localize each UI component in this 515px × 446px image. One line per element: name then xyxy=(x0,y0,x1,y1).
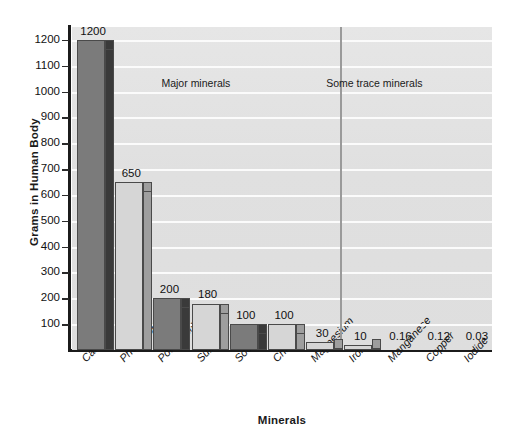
section-caption-major: Major minerals xyxy=(126,77,266,89)
bar-front-face xyxy=(115,182,143,350)
gridline xyxy=(72,66,492,68)
x-axis-title: Minerals xyxy=(72,414,492,426)
bar-front-face xyxy=(77,40,105,350)
y-tick-mark xyxy=(62,40,69,42)
bar-calcium xyxy=(77,40,105,350)
y-tick-label: 1000 xyxy=(16,86,60,98)
bar-value-label: 100 xyxy=(261,310,307,322)
bar-side-face xyxy=(105,49,114,350)
y-tick-mark xyxy=(62,195,69,197)
y-tick-mark xyxy=(62,272,69,274)
bar-magnesium xyxy=(306,342,334,350)
bar-value-label: 1200 xyxy=(70,26,116,38)
bar-sulfur xyxy=(192,304,220,351)
bar-value-label: 650 xyxy=(108,168,154,180)
bar-top-bevel xyxy=(105,40,114,49)
bar-front-face xyxy=(230,324,258,350)
y-tick-label: 300 xyxy=(16,266,60,278)
mineral-composition-bar-chart: Grams in Human Body Minerals 10020030040… xyxy=(0,0,515,446)
bar-phosphorus xyxy=(115,182,143,350)
bar-front-face xyxy=(192,304,220,351)
bar-side-face xyxy=(181,307,190,350)
y-tick-label: 400 xyxy=(16,241,60,253)
y-tick-mark xyxy=(62,324,69,326)
bar-value-label: 0.03 xyxy=(454,331,500,343)
gridline xyxy=(72,143,492,145)
y-tick-mark xyxy=(62,143,69,145)
y-tick-label: 900 xyxy=(16,111,60,123)
bar-chloride xyxy=(268,324,296,350)
y-tick-mark xyxy=(62,169,69,171)
section-caption-trace: Some trace minerals xyxy=(304,77,444,89)
y-tick-label: 800 xyxy=(16,137,60,149)
bar-front-face xyxy=(153,298,181,350)
gridline xyxy=(72,117,492,119)
y-axis-line xyxy=(68,25,71,352)
gridline xyxy=(72,40,492,42)
bar-top-bevel xyxy=(258,324,267,333)
plot-area: Major mineralsSome trace minerals 120065… xyxy=(72,27,492,350)
bar-value-label: 180 xyxy=(185,289,231,301)
major-trace-divider xyxy=(340,27,342,350)
y-tick-label: 1100 xyxy=(16,60,60,72)
y-tick-mark xyxy=(62,298,69,300)
bar-potassium xyxy=(153,298,181,350)
y-tick-label: 100 xyxy=(16,318,60,330)
bar-front-face xyxy=(268,324,296,350)
bar-side-face xyxy=(258,333,267,350)
y-tick-mark xyxy=(62,221,69,223)
bar-side-face xyxy=(372,348,381,350)
bar-sodium xyxy=(230,324,258,350)
y-tick-mark xyxy=(62,92,69,94)
y-tick-mark xyxy=(62,117,69,119)
bar-top-bevel xyxy=(143,182,152,191)
y-tick-mark xyxy=(62,247,69,249)
bar-side-face xyxy=(143,191,152,350)
bar-iron xyxy=(344,345,372,350)
y-tick-label: 700 xyxy=(16,163,60,175)
y-tick-mark xyxy=(62,66,69,68)
y-tick-label: 500 xyxy=(16,215,60,227)
y-tick-label: 1200 xyxy=(16,34,60,46)
bar-side-face xyxy=(334,348,343,350)
bar-value-label: 10 xyxy=(337,331,383,343)
y-tick-label: 200 xyxy=(16,292,60,304)
bar-front-face xyxy=(306,342,334,350)
bar-front-face xyxy=(344,345,372,350)
y-tick-label: 600 xyxy=(16,189,60,201)
gridline xyxy=(72,92,492,94)
